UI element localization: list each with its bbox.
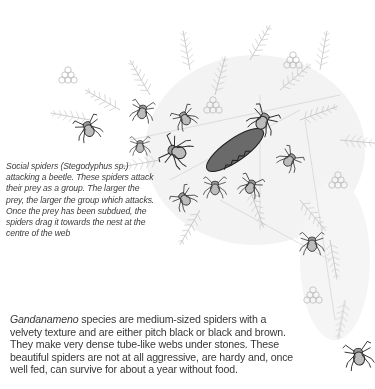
species-name: Gandanameno	[10, 313, 78, 325]
body-paragraph: Gandanameno species are medium-sized spi…	[10, 313, 295, 376]
figure-caption: Social spiders (Stegodyphus sp.) attacki…	[6, 161, 156, 239]
